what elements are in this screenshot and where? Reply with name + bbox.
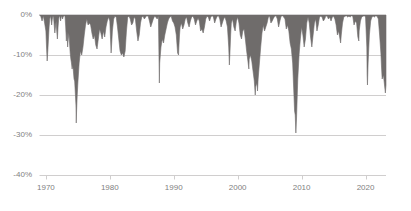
y-axis-tick-label: -30% <box>2 130 32 139</box>
drawdown-area <box>40 15 387 133</box>
x-axis-tick-label: 1970 <box>28 183 64 192</box>
x-axis-tick-label: 1990 <box>156 183 192 192</box>
chart-plot-area <box>0 0 411 211</box>
x-axis-ticks <box>47 176 367 180</box>
x-axis-tick-label: 2020 <box>348 183 384 192</box>
y-axis-tick-label: -20% <box>2 90 32 99</box>
x-axis-tick-label: 2010 <box>284 183 320 192</box>
drawdown-chart: 0%-10%-20%-30%-40% 197019801990200020102… <box>0 0 411 211</box>
y-axis-tick-label: 0% <box>2 10 32 19</box>
gridlines <box>40 16 387 176</box>
drawdown-area-series <box>40 15 387 133</box>
x-axis-tick-label: 1980 <box>92 183 128 192</box>
y-axis-tick-label: -40% <box>2 170 32 179</box>
x-axis-tick-label: 2000 <box>220 183 256 192</box>
y-axis-tick-label: -10% <box>2 50 32 59</box>
